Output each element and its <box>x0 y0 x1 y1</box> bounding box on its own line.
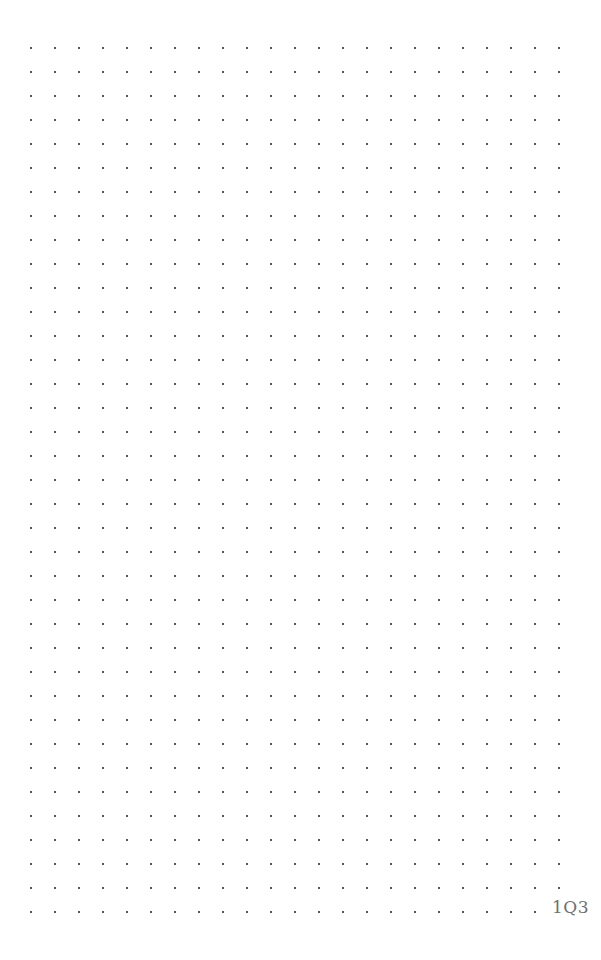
grid-dot <box>534 815 536 817</box>
grid-dot <box>30 71 32 73</box>
grid-dot <box>150 527 152 529</box>
grid-dot <box>558 431 560 433</box>
grid-dot <box>246 551 248 553</box>
grid-dot <box>78 215 80 217</box>
grid-dot <box>198 431 200 433</box>
grid-dot <box>198 383 200 385</box>
grid-dot <box>462 695 464 697</box>
grid-dot <box>78 479 80 481</box>
grid-dot <box>414 719 416 721</box>
grid-dot <box>198 119 200 121</box>
grid-dot <box>270 791 272 793</box>
grid-dot <box>30 647 32 649</box>
grid-dot <box>486 599 488 601</box>
page-number-marker: 1Q3 <box>552 899 589 916</box>
grid-dot <box>534 215 536 217</box>
grid-dot <box>342 887 344 889</box>
grid-dot <box>414 143 416 145</box>
grid-dot <box>270 143 272 145</box>
grid-dot <box>318 767 320 769</box>
grid-dot <box>270 431 272 433</box>
grid-dot <box>318 503 320 505</box>
grid-dot <box>222 575 224 577</box>
grid-dot <box>102 911 104 913</box>
grid-dot <box>366 671 368 673</box>
grid-dot <box>246 575 248 577</box>
grid-dot <box>54 599 56 601</box>
grid-dot <box>102 551 104 553</box>
grid-dot <box>366 839 368 841</box>
grid-dot <box>270 71 272 73</box>
grid-dot <box>78 95 80 97</box>
grid-dot <box>270 575 272 577</box>
grid-dot <box>366 887 368 889</box>
grid-dot <box>78 47 80 49</box>
grid-dot <box>462 503 464 505</box>
grid-dot <box>534 743 536 745</box>
grid-dot <box>30 95 32 97</box>
grid-dot <box>246 143 248 145</box>
grid-dot <box>318 839 320 841</box>
grid-dot <box>486 215 488 217</box>
grid-dot <box>414 95 416 97</box>
grid-dot <box>414 119 416 121</box>
grid-dot <box>558 695 560 697</box>
grid-dot <box>126 815 128 817</box>
grid-dot <box>342 503 344 505</box>
grid-dot <box>54 455 56 457</box>
grid-dot <box>390 911 392 913</box>
grid-dot <box>318 551 320 553</box>
grid-dot <box>438 359 440 361</box>
grid-dot <box>102 71 104 73</box>
grid-dot <box>342 863 344 865</box>
grid-dot <box>174 167 176 169</box>
grid-dot <box>390 599 392 601</box>
grid-dot <box>54 143 56 145</box>
grid-dot <box>390 791 392 793</box>
grid-dot <box>414 623 416 625</box>
grid-dot <box>342 191 344 193</box>
grid-dot <box>270 47 272 49</box>
grid-dot <box>30 863 32 865</box>
grid-dot <box>462 47 464 49</box>
grid-dot <box>342 911 344 913</box>
grid-dot <box>390 647 392 649</box>
grid-dot <box>126 647 128 649</box>
grid-dot <box>246 479 248 481</box>
grid-dot <box>54 719 56 721</box>
grid-dot <box>510 95 512 97</box>
grid-dot <box>414 71 416 73</box>
grid-dot <box>414 287 416 289</box>
grid-dot <box>486 623 488 625</box>
grid-dot <box>510 527 512 529</box>
grid-dot <box>174 575 176 577</box>
grid-dot <box>270 839 272 841</box>
grid-dot <box>558 815 560 817</box>
grid-dot <box>102 743 104 745</box>
grid-dot <box>222 191 224 193</box>
grid-dot <box>438 407 440 409</box>
grid-dot <box>78 143 80 145</box>
grid-dot <box>54 191 56 193</box>
grid-dot <box>462 215 464 217</box>
grid-dot <box>174 743 176 745</box>
grid-dot <box>366 95 368 97</box>
grid-dot <box>54 287 56 289</box>
grid-dot <box>78 863 80 865</box>
grid-dot <box>246 215 248 217</box>
grid-dot <box>390 671 392 673</box>
grid-dot <box>174 215 176 217</box>
grid-dot <box>390 815 392 817</box>
grid-dot <box>78 455 80 457</box>
grid-dot <box>78 71 80 73</box>
grid-dot <box>78 743 80 745</box>
grid-dot <box>366 695 368 697</box>
grid-dot <box>414 791 416 793</box>
grid-dot <box>486 239 488 241</box>
grid-dot <box>318 791 320 793</box>
grid-dot <box>510 407 512 409</box>
grid-dot <box>246 599 248 601</box>
grid-dot <box>438 191 440 193</box>
grid-dot <box>462 551 464 553</box>
grid-dot <box>174 71 176 73</box>
